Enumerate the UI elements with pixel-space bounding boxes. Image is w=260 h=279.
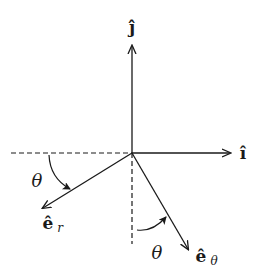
theta-label-left: θ xyxy=(32,170,43,191)
j-hat-label: ĵ xyxy=(127,17,135,37)
theta-angle-arc-left xyxy=(49,155,70,189)
e-r-vector-arrow xyxy=(43,153,132,208)
e-theta-label-subscript: θ xyxy=(210,254,218,268)
e-theta-label: ê θ xyxy=(196,246,219,268)
e-r-label: ê r xyxy=(43,213,65,235)
theta-angle-arc-bottom xyxy=(137,217,166,230)
e-theta-vector-arrow xyxy=(132,153,188,249)
e-theta-label-base: ê xyxy=(196,246,207,266)
theta-label-bottom: θ xyxy=(152,242,163,263)
e-r-label-subscript: r xyxy=(57,221,64,235)
e-r-label-base: ê xyxy=(43,213,54,233)
polar-unit-vector-diagram: ĵ î θ θ ê r ê θ xyxy=(0,0,260,279)
i-hat-label: î xyxy=(240,143,247,163)
